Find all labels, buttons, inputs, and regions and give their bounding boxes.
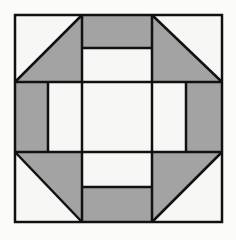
side-bar-right bbox=[186, 82, 222, 152]
side-bar-bottom bbox=[82, 187, 152, 222]
side-bar-top bbox=[82, 15, 152, 48]
quilt-block-diagram bbox=[0, 0, 236, 240]
side-bar-left bbox=[15, 82, 48, 152]
